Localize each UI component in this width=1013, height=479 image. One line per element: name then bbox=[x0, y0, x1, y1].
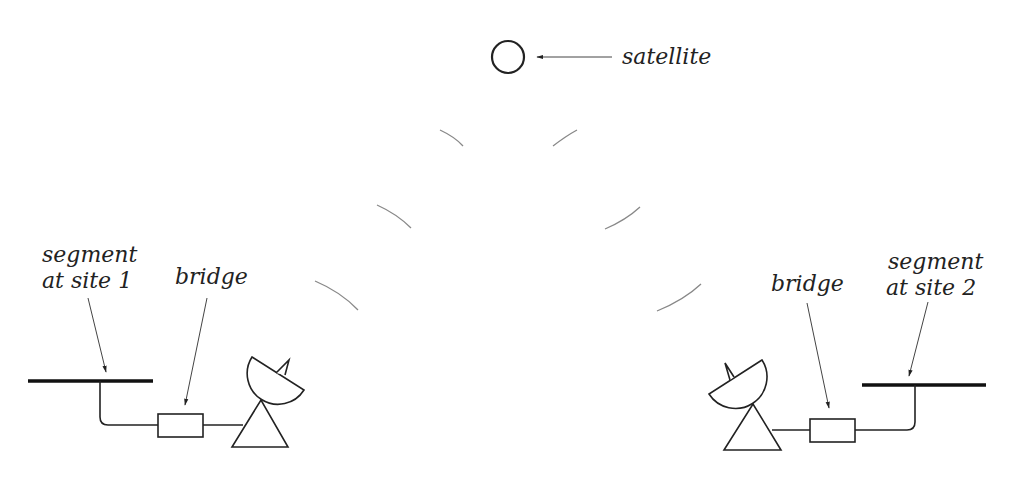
bridge-site1-arrow bbox=[185, 298, 207, 405]
segment-site1-label-line1: segment bbox=[42, 242, 137, 267]
satellite-icon bbox=[492, 41, 524, 73]
bridge-site2-label: bridge bbox=[771, 271, 844, 296]
cable-site2 bbox=[855, 385, 915, 430]
satellite-dish-icon bbox=[232, 357, 304, 447]
segment-site2-label-line2: at site 2 bbox=[886, 275, 976, 300]
radio-waves-icon bbox=[315, 130, 701, 311]
bridge-box-site1 bbox=[158, 414, 203, 437]
segment-site2-arrow bbox=[909, 302, 928, 376]
site-2: segment at site 2 bridge bbox=[709, 249, 986, 450]
bridge-site2-arrow bbox=[807, 303, 829, 408]
bridge-box-site2 bbox=[810, 419, 855, 442]
site-1: segment at site 1 bridge bbox=[28, 242, 304, 447]
segment-site2-label-line1: segment bbox=[888, 249, 983, 274]
segment-site1-label-line2: at site 1 bbox=[42, 268, 132, 293]
satellite-bridge-diagram: satellite segment at site 1 bridge segme… bbox=[0, 0, 1013, 479]
satellite-label: satellite bbox=[622, 44, 711, 69]
segment-site1-arrow bbox=[88, 298, 106, 372]
satellite-dish-icon bbox=[709, 360, 781, 450]
bridge-site1-label: bridge bbox=[175, 264, 248, 289]
cable-site1 bbox=[100, 381, 158, 425]
